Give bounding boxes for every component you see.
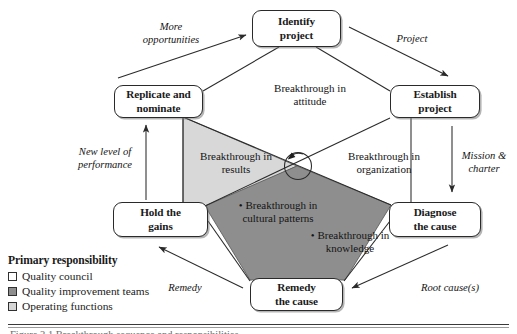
node-identify-project-line2: project [278,29,315,42]
label-cultural-line2: cultural patterns [242,212,313,224]
knowledge-bullet-icon: • [311,229,315,241]
legend-swatch-operating-functions [8,302,17,311]
node-identify-project-line1: Identify [278,15,315,28]
legend-item-quality-improvement-teams: Quality improvement teams [8,284,149,299]
label-cultural-line1: Breakthrough in [245,199,317,211]
footer-rule-secondary [8,327,509,328]
legend-label-quality-council: Quality council [22,269,93,284]
label-breakthrough-in-results: Breakthrough in results [176,150,296,176]
label-results-line1: Breakthrough in [200,150,272,162]
label-attitude-line1: Breakthrough in [274,82,346,94]
edge-label-remedy: Remedy [152,282,218,295]
node-replicate-and-nominate[interactable]: Replicate and nominate [114,85,203,118]
node-replicate-line1: Replicate and [126,88,190,101]
node-hold-the-gains[interactable]: Hold the gains [113,202,208,237]
label-organization-line1: Breakthrough in [348,150,420,162]
project-line1: Project [397,33,428,44]
node-diagnose-line2: the cause [414,220,457,233]
remedy-edge-line1: Remedy [168,282,202,293]
legend-label-operating-functions: Operating functions [22,299,113,314]
breakthrough-diagram: Identify project Replicate and nominate … [0,0,517,334]
edge-label-project: Project [375,33,449,46]
cultural-patterns-bullet-icon: • [239,199,243,211]
node-establish-project[interactable]: Establish project [390,85,480,118]
more-opportunities-line1: More [160,21,183,32]
node-identify-project[interactable]: Identify project [252,10,341,47]
legend-item-quality-council: Quality council [8,269,149,284]
label-breakthrough-in-organization: Breakthrough in organization [332,150,436,176]
legend: Primary responsibility Quality council Q… [8,253,149,314]
edge-label-mission-and-charter: Mission & charter [452,150,516,175]
label-results-line2: results [222,163,251,175]
node-diagnose-the-cause[interactable]: Diagnose the cause [389,202,481,237]
node-remedy-the-cause[interactable]: Remedy the cause [250,278,343,311]
label-organization-line2: organization [357,163,412,175]
new-level-line1: New level of [79,146,131,157]
root-causes-line1: Root cause(s) [421,282,479,293]
node-establish-line2: project [413,102,456,115]
figure-caption: Figure 2.1 Breakthrough sequence and res… [10,329,500,334]
new-level-line2: performance [78,159,132,170]
edge-label-more-opportunities: More opportunities [118,21,224,46]
mission-charter-line1: Mission & [462,150,506,161]
label-knowledge-line1: Breakthrough in [317,229,389,241]
mission-charter-line2: charter [468,163,499,174]
label-attitude-line2: attitude [294,95,327,107]
legend-swatch-quality-council [8,272,17,281]
legend-swatch-quality-improvement-teams [8,287,17,296]
node-remedy-line1: Remedy [275,281,318,294]
label-knowledge-line2: knowledge [326,242,374,254]
legend-item-operating-functions: Operating functions [8,299,149,314]
edge-label-new-level-of-performance: New level of performance [62,146,148,171]
more-opportunities-line2: opportunities [143,34,200,45]
legend-label-quality-improvement-teams: Quality improvement teams [22,284,149,299]
label-breakthrough-in-attitude: Breakthrough in attitude [246,82,374,108]
node-hold-line1: Hold the [140,206,181,219]
node-hold-line2: gains [140,220,181,233]
label-breakthrough-in-cultural-patterns: • Breakthrough in cultural patterns [218,199,338,225]
node-diagnose-line1: Diagnose [414,206,457,219]
edge-label-root-causes: Root cause(s) [398,282,502,295]
legend-title: Primary responsibility [8,253,149,268]
node-establish-line1: Establish [413,88,456,101]
footer-rule [8,324,509,325]
node-remedy-line2: the cause [275,295,318,308]
node-replicate-line2: nominate [126,102,190,115]
